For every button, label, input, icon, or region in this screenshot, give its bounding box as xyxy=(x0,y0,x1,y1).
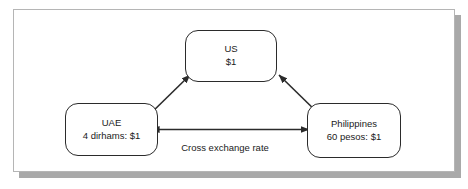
node-philippines-rate: 60 pesos: $1 xyxy=(327,131,381,144)
node-us-title: US xyxy=(224,43,237,56)
node-uae-title: UAE xyxy=(102,117,122,130)
figure-root: US $1 UAE 4 dirhams: $1 Philippines 60 p… xyxy=(0,0,468,189)
node-us: US $1 xyxy=(185,30,277,82)
node-uae-rate: 4 dirhams: $1 xyxy=(83,130,141,143)
node-us-rate: $1 xyxy=(226,56,237,69)
cross-exchange-rate-label: Cross exchange rate xyxy=(163,142,287,153)
node-philippines-title: Philippines xyxy=(331,118,377,131)
node-uae: UAE 4 dirhams: $1 xyxy=(65,103,158,156)
node-philippines: Philippines 60 pesos: $1 xyxy=(307,103,401,158)
